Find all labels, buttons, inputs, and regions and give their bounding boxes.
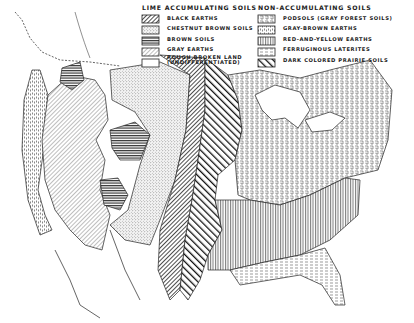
legend-label: FERRUGINOUS LATERITES [283,47,370,53]
region-podsols [228,60,392,205]
legend-label: BLACK EARTHS [167,16,218,22]
legend-item: DARK COLORED PRAIRIE SOILS [258,55,392,66]
legend-label: CHESTNUT BROWN SOILS [167,26,253,32]
legend-item: BROWN SOILS [142,34,257,45]
legend-item: BLACK EARTHS [142,13,257,24]
legend-header: LIME ACCUMULATING SOILS [142,4,257,11]
legend-item: CHESTNUT BROWN SOILS [142,24,257,35]
legend-label-sub: (UNDIFFERENTIATED) [167,59,240,65]
legend-label: DARK COLORED PRAIRIE SOILS [283,58,388,64]
legend-label: GRAY EARTHS [167,47,214,53]
legend-label: RED-AND-YELLOW EARTHS [283,37,372,43]
region-gray-earths [42,75,110,250]
legend-item: FERRUGINOUS LATERITES [258,45,392,56]
legend-non-accumulating: NON-ACCUMULATING SOILS PODSOLS (GRAY FOR… [258,4,392,66]
legend-label: PODSOLS (GRAY FOREST SOILS) [283,16,392,22]
legend-item: ROUGH BROKEN LAND(UNDIFFERENTIATED) [142,55,257,66]
legend-lime-accumulating: LIME ACCUMULATING SOILS BLACK EARTHS CHE… [142,4,257,66]
legend-item: PODSOLS (GRAY FOREST SOILS) [258,13,392,24]
legend-label: GRAY-BROWN EARTHS [283,26,357,32]
region-brown-soils-2 [100,178,128,210]
legend-item: RED-AND-YELLOW EARTHS [258,34,392,45]
legend-header: NON-ACCUMULATING SOILS [258,4,392,11]
legend-item: GRAY-BROWN EARTHS [258,24,392,35]
legend-label: BROWN SOILS [167,37,215,43]
